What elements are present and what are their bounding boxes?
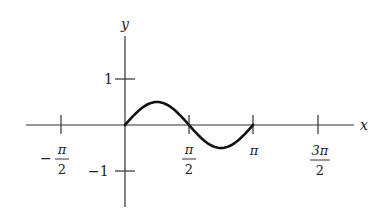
x-tick-label-three-half-pi-num: 3π bbox=[312, 143, 329, 158]
x-tick-label-half-pi-num: π bbox=[184, 142, 194, 157]
sine-plot: y x 1 −1 − π 2 π 2 π 3π 2 bbox=[0, 0, 384, 212]
y-axis-label: y bbox=[120, 16, 130, 32]
x-tick-label-neg-half-pi-sign: − bbox=[40, 150, 52, 166]
y-tick-label-neg-1: −1 bbox=[88, 163, 109, 179]
x-tick-label-neg-half-pi-num: π bbox=[57, 142, 67, 157]
x-tick-label-three-half-pi-den: 2 bbox=[316, 163, 324, 178]
y-tick-label-1: 1 bbox=[104, 71, 113, 87]
x-tick-label-pi: π bbox=[249, 143, 259, 158]
x-tick-label-neg-half-pi-den: 2 bbox=[58, 162, 66, 177]
x-tick-label-half-pi-den: 2 bbox=[185, 162, 193, 177]
x-axis-label: x bbox=[360, 117, 368, 133]
